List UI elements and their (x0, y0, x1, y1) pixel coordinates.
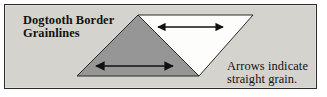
arrows-indicate-straight-grain-label: Arrows indicate straight grain. (227, 60, 308, 87)
dogtooth-border-grainlines-label: Dogtooth Border Grainlines (23, 14, 114, 41)
figure-container: Dogtooth Border Grainlines Arrows indica… (0, 0, 327, 97)
diagram-panel: Dogtooth Border Grainlines Arrows indica… (4, 4, 317, 89)
